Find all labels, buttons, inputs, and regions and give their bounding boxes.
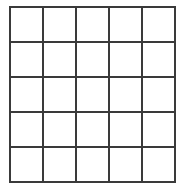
grid-cell [75,111,108,146]
grid-cell [108,76,141,111]
grid-cell [141,6,174,41]
grid-cell [9,6,42,41]
grid-cell [42,111,75,146]
grid-cell [108,41,141,76]
canvas [0,0,180,191]
grid-cell [141,146,174,181]
grid-cell [9,76,42,111]
grid-cell [75,76,108,111]
grid-cell [42,146,75,181]
grid-cell [42,41,75,76]
grid-cell [42,76,75,111]
grid-5x5 [9,6,176,183]
grid-cell [75,41,108,76]
grid-cell [141,76,174,111]
grid-cell [108,111,141,146]
grid-cell [9,111,42,146]
grid-cell [42,6,75,41]
grid-cell [75,6,108,41]
grid-cell [75,146,108,181]
grid-cell [141,111,174,146]
grid-cell [9,146,42,181]
grid-cell [108,146,141,181]
grid-cell [108,6,141,41]
grid-cell [9,41,42,76]
grid-cell [141,41,174,76]
